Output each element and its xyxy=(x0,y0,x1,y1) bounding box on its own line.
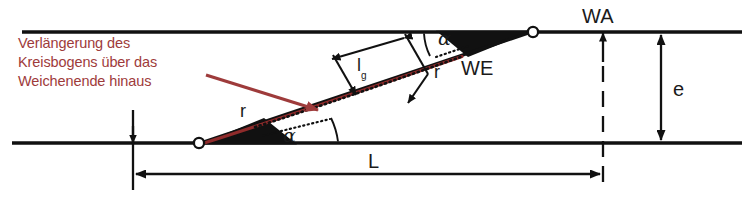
lg-measure-arrow xyxy=(332,38,404,59)
lg-left-extension xyxy=(333,55,356,95)
annotation-red-line-1: Verlängerung des xyxy=(18,35,130,52)
lg-label: lg xyxy=(357,55,367,78)
alpha-label-lower: α xyxy=(283,124,296,146)
radius-label-upper: r xyxy=(434,62,440,83)
alpha-upper-arc xyxy=(424,34,430,57)
switch-point-lower-circle xyxy=(194,138,204,148)
alpha-label-upper: α xyxy=(438,27,451,49)
red-arc-group xyxy=(205,57,462,143)
lg-pointer-arrow xyxy=(408,74,428,103)
WA-label: WA xyxy=(582,5,613,29)
alpha-lower-arc xyxy=(331,118,338,142)
turnout-geometry-diagram: Verlängerung des Kreisbogens über das We… xyxy=(0,0,749,198)
lg-label-subscript: g xyxy=(361,70,367,81)
L-dimension-label: L xyxy=(368,150,379,174)
WE-label: WE xyxy=(461,57,493,81)
red-annotation-arrow-group xyxy=(206,75,318,110)
switch-point-upper-circle xyxy=(528,27,538,37)
radius-label-lower: r xyxy=(240,101,246,122)
annotation-red-line-2: Kreisbogens über das xyxy=(18,54,157,71)
e-dimension-label: e xyxy=(673,78,684,102)
annotation-red-line-3: Weichenende hinaus xyxy=(18,73,151,90)
red-annotation-arrow xyxy=(206,75,318,110)
